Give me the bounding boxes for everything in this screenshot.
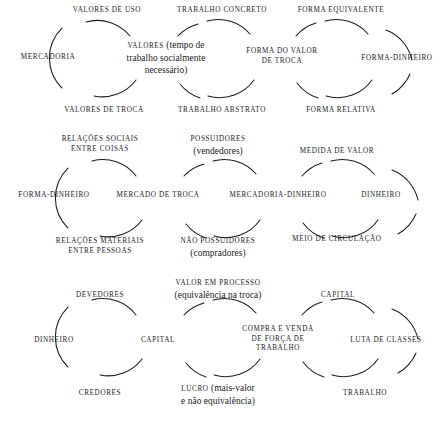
node-line: e não equivalência) xyxy=(181,394,255,406)
n-possuidores: Possuidores(vendedores) xyxy=(190,132,245,157)
connector-arc xyxy=(100,220,142,237)
node-line: Dinheiro xyxy=(361,191,401,201)
node-text: trabalho socialmente xyxy=(127,53,206,63)
n-meio-de-circulacao: Meio de circulação xyxy=(292,235,381,245)
n-forma-relativa: Forma relativa xyxy=(306,106,376,116)
node-line: Lucro (mais-valor xyxy=(181,382,255,395)
arc-layer xyxy=(0,0,441,438)
connector-arc xyxy=(208,80,254,98)
node-line: Relações sociais xyxy=(62,135,139,145)
connector-arc xyxy=(326,80,372,98)
node-line: Meio de circulação xyxy=(292,235,381,245)
connector-arc xyxy=(392,309,418,339)
node-line: Medida de valor xyxy=(300,147,374,157)
n-trabalho-abstrato: Trabalho abstrato xyxy=(178,106,266,116)
node-line: Possuidores xyxy=(190,132,245,145)
node-line: Dinheiro xyxy=(34,336,74,346)
n-valores-tempo: Valores (tempo detrabalho socialmentenec… xyxy=(127,39,206,76)
connector-arc xyxy=(331,159,374,174)
connector-arc xyxy=(92,160,136,176)
connector-arc xyxy=(184,164,204,176)
n-devedores: Devedores xyxy=(76,291,124,301)
connector-arc xyxy=(207,19,250,34)
node-line: Valores de uso xyxy=(73,6,141,16)
n-dinheiro-1: Dinheiro xyxy=(361,191,401,201)
connector-arc xyxy=(214,359,260,377)
node-text-smallcaps: Valores xyxy=(127,42,164,50)
node-line: Forma-dinheiro xyxy=(18,191,89,201)
n-dinheiro-2: Dinheiro xyxy=(34,336,74,346)
n-medida-de-valor: Medida de valor xyxy=(300,147,374,157)
n-trabalho-concreto: Trabalho concreto xyxy=(177,6,267,16)
n-relacoes-materiais: Relações materiaisentre pessoas xyxy=(56,237,144,256)
connector-arc xyxy=(398,214,416,234)
n-forma-dinheiro-1: Forma-dinheiro xyxy=(361,54,432,64)
connector-arc xyxy=(180,84,200,98)
node-line: Valores (tempo de xyxy=(127,39,206,52)
node-line: Forma-dinheiro xyxy=(361,54,432,64)
node-line: Compra e venda xyxy=(242,325,314,335)
n-forma-equivalente: Forma equivalente xyxy=(298,6,385,16)
node-text: (compradores) xyxy=(190,247,245,257)
connector-arc xyxy=(303,362,324,377)
connector-arc xyxy=(297,83,318,98)
connector-arc xyxy=(302,163,322,176)
node-text-smallcaps: Valor em processo xyxy=(176,279,261,287)
node-line: de força de xyxy=(242,334,314,344)
n-relacoes-sociais: Relações sociaisentre coisas xyxy=(62,135,139,154)
connector-arc xyxy=(332,359,378,377)
node-line: Capital xyxy=(321,291,355,301)
node-line: Mercadoria-dinheiro xyxy=(229,191,326,201)
node-text: necessário) xyxy=(145,65,188,75)
node-line: Trabalho xyxy=(343,389,387,399)
connector-arc xyxy=(94,80,136,97)
n-valores-de-troca: Valores de troca xyxy=(64,106,143,116)
connector-arc xyxy=(296,23,316,36)
n-nao-possuidores: Não possuidores(compradores) xyxy=(181,234,256,259)
connector-arc xyxy=(100,359,142,376)
connector-arc xyxy=(86,20,130,36)
connector-arc xyxy=(392,74,410,94)
connector-arc xyxy=(398,353,416,373)
connector-arc xyxy=(213,298,256,313)
n-capital-mid: Capital xyxy=(141,336,175,346)
node-line: necessário) xyxy=(127,64,206,76)
connector-arc xyxy=(178,24,198,36)
node-line: Valores de troca xyxy=(64,106,143,116)
node-line: Capital xyxy=(141,336,175,346)
diagram-canvas: Valores de usoTrabalho concretoForma equ… xyxy=(0,0,441,438)
connector-arc xyxy=(302,302,322,315)
n-capital-top: Capital xyxy=(321,291,355,301)
node-text: e não equivalência) xyxy=(181,395,255,405)
n-trabalho: Trabalho xyxy=(343,389,387,399)
n-credores: Credores xyxy=(79,389,121,399)
node-text-smallcaps: Lucro xyxy=(181,385,208,393)
node-text: (mais-valor xyxy=(209,383,255,393)
node-line: Não possuidores xyxy=(181,234,256,247)
node-line: Forma equivalente xyxy=(298,6,385,16)
node-line: Forma do valor xyxy=(246,47,317,57)
node-line: Relações materiais xyxy=(56,237,144,247)
node-line: Devedores xyxy=(76,291,124,301)
connector-arc xyxy=(184,303,204,315)
connector-arc xyxy=(325,19,368,34)
node-line: Luta de classes xyxy=(350,336,421,346)
node-line: Trabalho concreto xyxy=(177,6,267,16)
node-text-smallcaps: Possuidores xyxy=(190,135,245,143)
n-compra-e-venda: Compra e vendade força detrabalho xyxy=(242,325,314,354)
node-line: Mercadoria xyxy=(21,53,75,63)
node-line: (equivalência na troca) xyxy=(175,288,262,300)
node-text: (tempo de xyxy=(164,40,205,50)
node-line: Trabalho abstrato xyxy=(178,106,266,116)
n-valores-de-uso: Valores de uso xyxy=(73,6,141,16)
connector-arc xyxy=(186,363,206,377)
node-line: entre pessoas xyxy=(56,246,144,256)
node-line: (compradores) xyxy=(181,246,256,258)
n-mercadoria: Mercadoria xyxy=(21,53,75,63)
node-line: entre coisas xyxy=(62,144,139,154)
node-line: Valor em processo xyxy=(175,276,262,289)
node-line: Credores xyxy=(79,389,121,399)
node-text: (vendedores) xyxy=(193,145,243,155)
n-lucro: Lucro (mais-valore não equivalência) xyxy=(181,382,255,407)
node-line: trabalho xyxy=(242,344,314,354)
